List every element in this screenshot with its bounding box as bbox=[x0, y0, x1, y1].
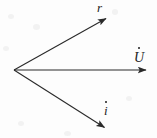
vector-arrow-i-dot bbox=[14, 70, 105, 128]
vector-diagram: r U i bbox=[0, 0, 157, 138]
overdot-icon bbox=[105, 101, 107, 103]
overdot-icon bbox=[138, 47, 140, 49]
vector-label-i-text: i bbox=[104, 103, 108, 118]
vector-label-u-text: U bbox=[134, 50, 144, 65]
vector-label-r-dot: r bbox=[97, 1, 102, 14]
vector-arrows-group bbox=[0, 0, 157, 138]
vector-arrow-r-dot bbox=[14, 19, 106, 71]
vector-label-i-dot: i bbox=[104, 104, 108, 117]
vector-label-r-text: r bbox=[97, 0, 102, 15]
vector-label-u-dot: U bbox=[134, 51, 144, 65]
